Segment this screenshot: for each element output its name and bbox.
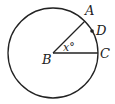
point-D-marker — [90, 29, 94, 33]
angle-label-x: x° — [63, 41, 75, 54]
label-C: C — [100, 46, 110, 61]
label-B: B — [41, 52, 52, 67]
circle-diagram: A D C B x° — [0, 0, 115, 104]
label-A: A — [84, 3, 94, 18]
label-D: D — [95, 23, 107, 38]
